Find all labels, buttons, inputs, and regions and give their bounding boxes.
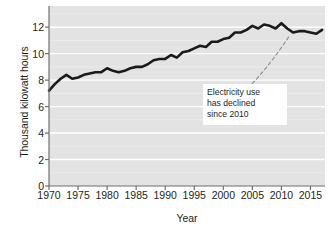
y-tick-label: 10 [22, 49, 44, 60]
annotation-line-2: has declined [207, 98, 283, 109]
y-tick-label: 2 [22, 155, 44, 166]
x-axis-title: Year [49, 212, 325, 224]
chart-container: Thousand kilowatt hours Year 024681012 1… [0, 0, 335, 232]
y-tick-label: 6 [22, 102, 44, 113]
x-tick-label: 2015 [290, 190, 330, 201]
y-tick-label: 12 [22, 22, 44, 33]
y-tick-label: 4 [22, 128, 44, 139]
annotation-callout: Electricity use has declined since 2010 [203, 84, 287, 125]
y-tick-label: 8 [22, 75, 44, 86]
annotation-line-3: since 2010 [207, 109, 283, 120]
annotation-line-1: Electricity use [207, 87, 283, 98]
